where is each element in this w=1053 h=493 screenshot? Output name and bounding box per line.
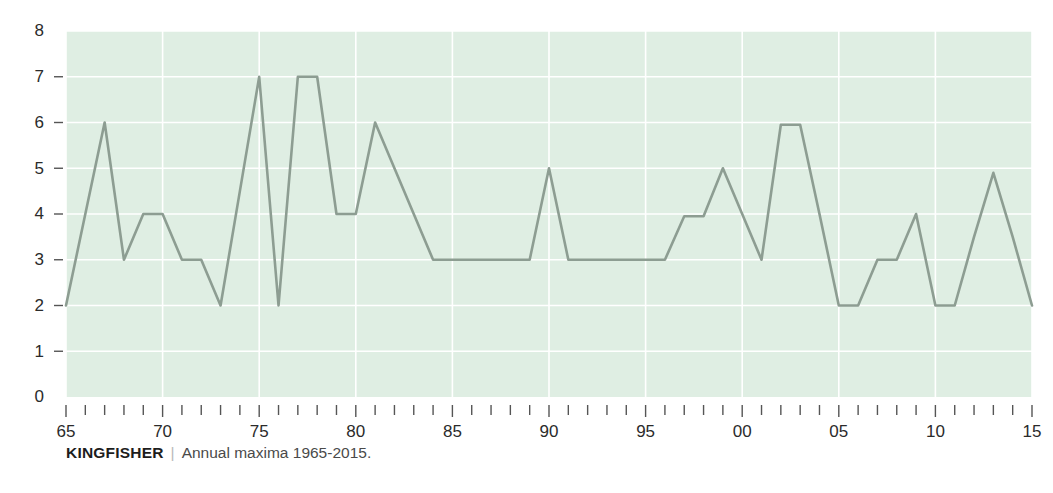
x-axis-tick-label: 00	[733, 422, 752, 441]
caption-series-name: KINGFISHER	[66, 444, 164, 462]
y-axis-tick-label: 4	[35, 204, 44, 223]
x-axis-tick-label: 15	[1023, 422, 1042, 441]
y-axis-tick-label: 0	[35, 387, 44, 406]
annual-maxima-line-chart: 012345678 6570758085909500051015	[0, 0, 1053, 493]
y-axis-tick-label: 3	[35, 250, 44, 269]
chart-figure: 012345678 6570758085909500051015 KINGFIS…	[0, 0, 1053, 493]
x-axis-tick-labels: 6570758085909500051015	[57, 422, 1042, 441]
y-axis-tick-label: 7	[35, 67, 44, 86]
caption-description: Annual maxima 1965-2015.	[182, 444, 372, 462]
x-axis-tick-label: 85	[443, 422, 462, 441]
y-axis-tick-label: 5	[35, 159, 44, 178]
x-axis-tick-label: 05	[829, 422, 848, 441]
y-axis-tick-label: 6	[35, 113, 44, 132]
x-axis-tick-label: 70	[153, 422, 172, 441]
x-axis-tick-label: 75	[250, 422, 269, 441]
x-axis-tick-label: 10	[926, 422, 945, 441]
caption-separator: |	[164, 444, 182, 462]
x-axis-tick-label: 80	[346, 422, 365, 441]
y-axis-tick-marks	[54, 77, 63, 352]
y-axis-tick-label: 8	[35, 21, 44, 40]
x-axis-tick-label: 65	[57, 422, 76, 441]
x-axis-tick-marks	[66, 405, 1032, 417]
y-axis-tick-labels: 012345678	[35, 21, 44, 406]
y-axis-tick-label: 2	[35, 296, 44, 315]
y-axis-tick-label: 1	[35, 342, 44, 361]
chart-caption: KINGFISHER | Annual maxima 1965-2015.	[66, 444, 371, 462]
x-axis-tick-label: 90	[540, 422, 559, 441]
x-axis-tick-label: 95	[636, 422, 655, 441]
